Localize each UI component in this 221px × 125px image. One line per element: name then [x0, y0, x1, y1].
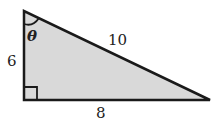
triangle-diagram — [0, 0, 221, 125]
hypotenuse-label: 10 — [108, 33, 127, 48]
angle-theta-label: θ — [27, 29, 37, 44]
triangle-shape — [24, 11, 210, 100]
vertical-leg-label: 6 — [7, 54, 17, 69]
horizontal-leg-label: 8 — [96, 106, 106, 121]
